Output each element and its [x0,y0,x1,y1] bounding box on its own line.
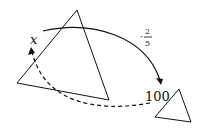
large-triangle [17,10,109,100]
operation-numerator: 2 [145,27,150,36]
operation-denominator: 5 [145,39,150,48]
operation-dot: · [140,31,143,42]
end-label: 100 [145,89,170,104]
inverse-arrowhead-icon [28,47,35,55]
inverse-arrow-curve [32,52,150,106]
forward-arrowhead-icon [156,78,163,85]
diagram-canvas: x 100 · 2 5 [0,0,200,132]
start-label: x [30,32,38,47]
